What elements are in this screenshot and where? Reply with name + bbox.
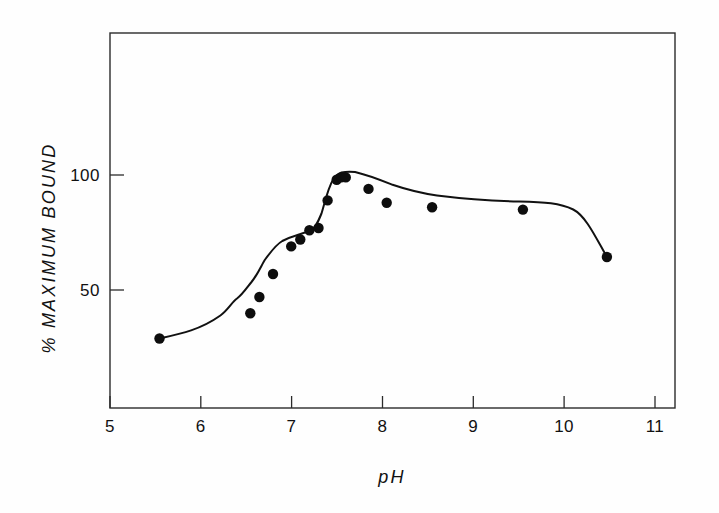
x-tick-label-7: 7 xyxy=(287,417,297,436)
data-point xyxy=(363,184,373,194)
x-tick-label-11: 11 xyxy=(646,417,665,436)
x-axis-title: pH xyxy=(377,467,405,487)
data-points xyxy=(154,172,612,343)
x-tick-marks xyxy=(110,396,655,408)
y-tick-marks xyxy=(110,175,124,290)
data-point xyxy=(322,195,332,205)
data-point xyxy=(602,252,612,262)
x-tick-label-8: 8 xyxy=(378,417,388,436)
data-point xyxy=(286,241,296,251)
data-point xyxy=(304,225,314,235)
data-point xyxy=(382,198,392,208)
plot-frame xyxy=(110,33,675,408)
x-tick-label-6: 6 xyxy=(196,417,206,436)
data-point xyxy=(313,223,323,233)
data-point xyxy=(245,308,255,318)
data-point xyxy=(268,269,278,279)
data-curve xyxy=(160,172,607,339)
figure-container: 5 6 7 8 9 10 11 50 100 pH % MAXIMUM BOUN… xyxy=(0,0,719,513)
data-point xyxy=(154,333,164,343)
data-point xyxy=(254,292,264,302)
data-point xyxy=(518,204,528,214)
y-tick-label-50: 50 xyxy=(80,281,100,300)
data-point xyxy=(427,202,437,212)
data-point xyxy=(341,172,351,182)
y-axis-title: % MAXIMUM BOUND xyxy=(39,142,59,353)
data-point xyxy=(295,234,305,244)
x-tick-label-10: 10 xyxy=(554,417,574,436)
x-tick-label-5: 5 xyxy=(105,417,115,436)
ph-binding-chart: 5 6 7 8 9 10 11 50 100 pH % MAXIMUM BOUN… xyxy=(0,0,719,513)
x-tick-label-9: 9 xyxy=(468,417,478,436)
y-tick-label-100: 100 xyxy=(70,166,100,185)
